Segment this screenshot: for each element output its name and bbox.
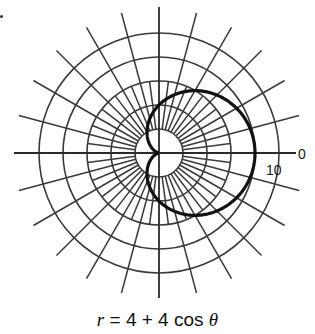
angle-zero-label: 0 (298, 146, 306, 162)
radial-line (121, 176, 152, 293)
radial-line (19, 115, 136, 146)
caption-theta: θ (209, 309, 218, 330)
radial-line (165, 13, 196, 130)
equation-caption: r = 4 + 4 cos θ (0, 309, 315, 331)
caption-expression: = 4 + 4 cos (104, 309, 209, 330)
stray-dot (0, 15, 3, 18)
radial-line (56, 50, 142, 136)
radial-line (19, 159, 136, 190)
radial-line (182, 115, 299, 146)
radial-line (165, 176, 196, 293)
radial-line (121, 13, 152, 130)
radius-ten-label: 10 (266, 162, 282, 178)
radial-line (56, 170, 142, 256)
